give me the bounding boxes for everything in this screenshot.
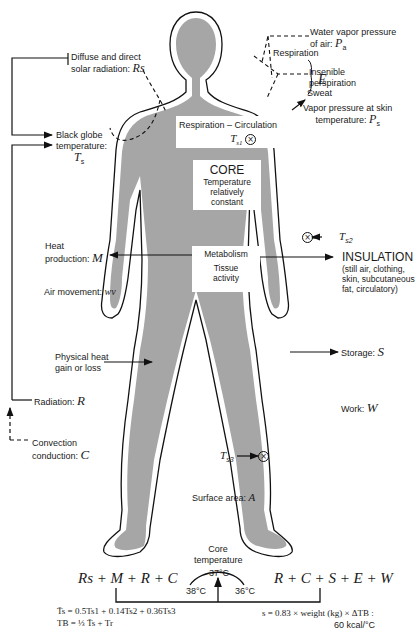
respiration-circulation-label: Respiration – Circulation: [176, 120, 280, 131]
insulation-line1: (still air, clothing,: [342, 264, 415, 274]
ts3-label: Ts3: [220, 450, 234, 465]
metabolism-box: Metabolism Tissue activity: [192, 246, 260, 292]
vapor-skin-label: Vapor pressure at skin temperature: Ps: [303, 103, 392, 129]
physical-heat-line1: Physical heat: [55, 352, 109, 363]
air-movement-text: Air movement:: [44, 287, 102, 297]
core-line1: Temperature: [193, 177, 261, 187]
core-title: CORE: [193, 163, 261, 177]
ts2-label: Ts2: [339, 231, 353, 246]
insulation-label: INSULATION (still air, clothing, skin, s…: [342, 250, 415, 294]
physical-heat-label: Physical heat gain or loss: [55, 352, 109, 374]
core-line2: relatively: [193, 187, 261, 197]
wv-symbol: wv: [105, 286, 116, 297]
convection-label: Convection conduction: C: [32, 438, 89, 462]
tissue-line1: Tissue: [192, 263, 260, 273]
storage-formula: s = 0.83 × weight (kg) × ΔTB :: [262, 608, 374, 619]
work-label: Work: W: [341, 402, 378, 415]
e-symbol: E: [318, 74, 327, 85]
radiation-label: Radiation: R: [34, 395, 85, 408]
heat-production-label: Heat production: M: [45, 241, 103, 265]
surface-area-text: Surface area:: [192, 493, 246, 503]
black-globe-label: Black globe temperature: Ts: [56, 130, 107, 167]
rs-symbol: Rs: [133, 61, 145, 75]
insensible-label: Insenible perspiration: [309, 67, 356, 89]
ts2-subscript: s2: [345, 237, 352, 244]
sensor-ts2-icon: ×: [302, 232, 313, 243]
r-symbol: R: [77, 393, 85, 408]
sensor-ts1-icon: ×: [245, 134, 256, 145]
storage-formula-units: 60 kcal/°C: [334, 620, 375, 631]
insulation-title: INSULATION: [342, 250, 415, 264]
core-temp-38: 38°C: [186, 586, 206, 597]
core-line3: constant: [193, 197, 261, 207]
a-symbol: A: [249, 491, 256, 503]
insulation-line3: fat, circulatory): [342, 284, 415, 294]
air-movement-label: Air movement: wv: [44, 286, 116, 298]
physical-heat-line2: gain or loss: [55, 363, 109, 374]
insulation-line2: skin, subcutaneous: [342, 274, 415, 284]
vapor-skin-line2: temperature:: [316, 115, 367, 125]
core-temp-36: 36°C: [235, 586, 255, 597]
metabolism-label: Metabolism: [192, 249, 260, 259]
core-temp-line1: Core: [194, 544, 242, 555]
work-text: Work:: [341, 404, 364, 414]
heat-gain-equation: Rs + M + R + C: [78, 570, 178, 587]
m-symbol: M: [92, 250, 103, 265]
w-symbol: W: [367, 400, 378, 415]
core-temp-37: 37°C: [209, 568, 229, 579]
ps-subscript: s: [376, 120, 380, 127]
core-temperature-label: Core temperature: [194, 544, 242, 566]
storage-label: Storage: S: [341, 346, 384, 359]
mean-skin-formula: T̄s = 0.5Ts1 + 0.14Ts2 + 0.36Ts3: [57, 606, 175, 617]
respiration-label: Respiration: [273, 48, 319, 59]
black-globe-line1: Black globe: [56, 130, 107, 141]
pa-subscript: a: [342, 44, 346, 51]
tg-subscript: s: [81, 158, 85, 165]
water-vapor-label: Water vapor pressure of air: Pa: [310, 27, 396, 53]
heat-loss-equation: R + C + S + E + W: [274, 570, 393, 587]
storage-text: Storage:: [341, 348, 375, 358]
water-vapor-line1: Water vapor pressure: [310, 27, 396, 38]
s-symbol: S: [378, 344, 385, 359]
core-temp-line2: temperature: [194, 555, 242, 566]
tissue-line2: activity: [192, 273, 260, 283]
vapor-skin-line1: Vapor pressure at skin: [303, 103, 392, 114]
core-box: CORE Temperature relatively constant: [193, 160, 261, 210]
insensible-line1: Insenible: [309, 67, 356, 78]
black-globe-line2: temperature:: [56, 141, 107, 152]
respiration-circulation-box: Respiration – Circulation Ts1 ×: [176, 116, 280, 148]
convection-line2: conduction:: [32, 451, 78, 461]
ts3-subscript: s3: [226, 456, 233, 463]
body-temp-formula: TB = ⅓ T̄s + Tr: [57, 618, 113, 629]
sweat-label: Sweat: [307, 88, 332, 99]
solar-radiation-label: Diffuse and direct solar radiation: Rs: [71, 52, 145, 75]
ts1-subscript: s1: [236, 139, 242, 147]
heat-production-line2: production:: [45, 254, 90, 264]
sensor-ts3-icon: ×: [258, 451, 269, 462]
c-symbol: C: [81, 447, 90, 462]
solar-line2: solar radiation:: [71, 64, 130, 74]
radiation-text: Radiation:: [34, 397, 75, 407]
surface-area-label: Surface area: A: [192, 492, 255, 504]
tg-symbol: T: [74, 150, 81, 164]
